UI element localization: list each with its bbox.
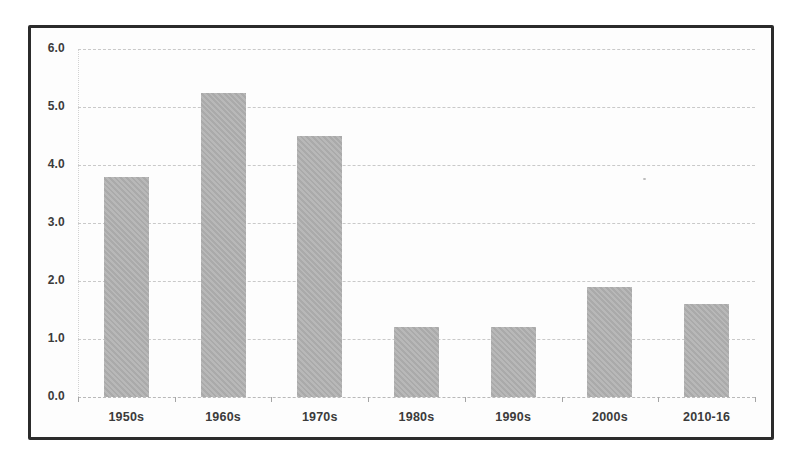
gridline-4.0 <box>78 165 755 166</box>
ytick-label-5.0: 5.0 <box>31 99 65 114</box>
ytick-label-4.0: 4.0 <box>31 157 65 172</box>
bar-1980s <box>394 327 439 397</box>
x-axis-tick <box>78 397 79 402</box>
bar-1960s <box>201 93 246 398</box>
xtick-label-1970s: 1970s <box>275 410 365 425</box>
bar-2010-16 <box>684 304 729 397</box>
scan-artifact-dot <box>643 178 646 180</box>
ytick-label-3.0: 3.0 <box>31 215 65 230</box>
x-axis-tick <box>175 397 176 402</box>
xtick-label-1990s: 1990s <box>468 410 558 425</box>
bar-1990s <box>491 327 536 397</box>
bar-1950s <box>104 177 149 397</box>
xtick-label-1950s: 1950s <box>81 410 171 425</box>
gridline-2.0 <box>78 281 755 282</box>
x-axis-tick <box>755 397 756 402</box>
gridline-6.0 <box>78 49 755 50</box>
ytick-label-2.0: 2.0 <box>31 273 65 288</box>
gridline-3.0 <box>78 223 755 224</box>
bar-2000s <box>587 287 632 397</box>
gridline-5.0 <box>78 107 755 108</box>
x-axis-tick <box>368 397 369 402</box>
x-axis-tick <box>658 397 659 402</box>
xtick-label-2000s: 2000s <box>565 410 655 425</box>
x-axis-tick <box>562 397 563 402</box>
chart-figure-frame: 0.01.02.03.04.05.06.01950s1960s1970s1980… <box>28 25 774 440</box>
gridline-0.0 <box>78 397 755 398</box>
xtick-label-1960s: 1960s <box>178 410 268 425</box>
x-axis-tick <box>465 397 466 402</box>
xtick-label-2010-16: 2010-16 <box>662 410 752 425</box>
x-axis-tick <box>271 397 272 402</box>
xtick-label-1980s: 1980s <box>372 410 462 425</box>
ytick-label-1.0: 1.0 <box>31 331 65 346</box>
ytick-label-6.0: 6.0 <box>31 41 65 56</box>
bar-1970s <box>297 136 342 397</box>
bar-chart: 0.01.02.03.04.05.06.01950s1960s1970s1980… <box>31 28 771 437</box>
ytick-label-0.0: 0.0 <box>31 389 65 404</box>
